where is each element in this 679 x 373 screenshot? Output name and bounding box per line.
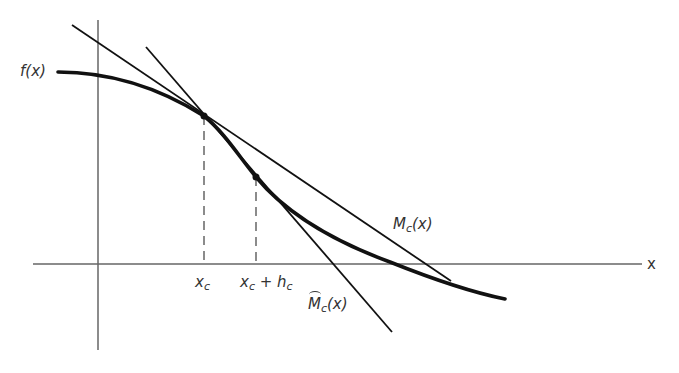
- tangent-line: [72, 25, 451, 281]
- xch-base: x: [240, 273, 249, 291]
- function-label: f(x): [20, 64, 46, 79]
- secant-base: M: [308, 297, 321, 312]
- secant-arg: (x): [327, 295, 348, 313]
- tangent-label: Mc(x): [393, 217, 433, 234]
- xc-plus-hc-label: xc + hc: [240, 275, 293, 292]
- xc-base: x: [195, 273, 204, 291]
- xch-plus: + h: [255, 273, 287, 291]
- diagram-canvas: [0, 0, 679, 373]
- xc-label: xc: [195, 275, 210, 292]
- xch-sub2: c: [287, 280, 293, 293]
- point-xc-plus-hc: [253, 174, 260, 181]
- x-axis-label: x: [647, 257, 656, 272]
- function-curve: [58, 72, 505, 299]
- point-xc: [201, 113, 208, 120]
- tangent-arg: (x): [412, 215, 433, 233]
- tangent-base: M: [393, 215, 406, 233]
- secant-label: Mc(x): [308, 297, 348, 314]
- xc-sub: c: [204, 280, 210, 293]
